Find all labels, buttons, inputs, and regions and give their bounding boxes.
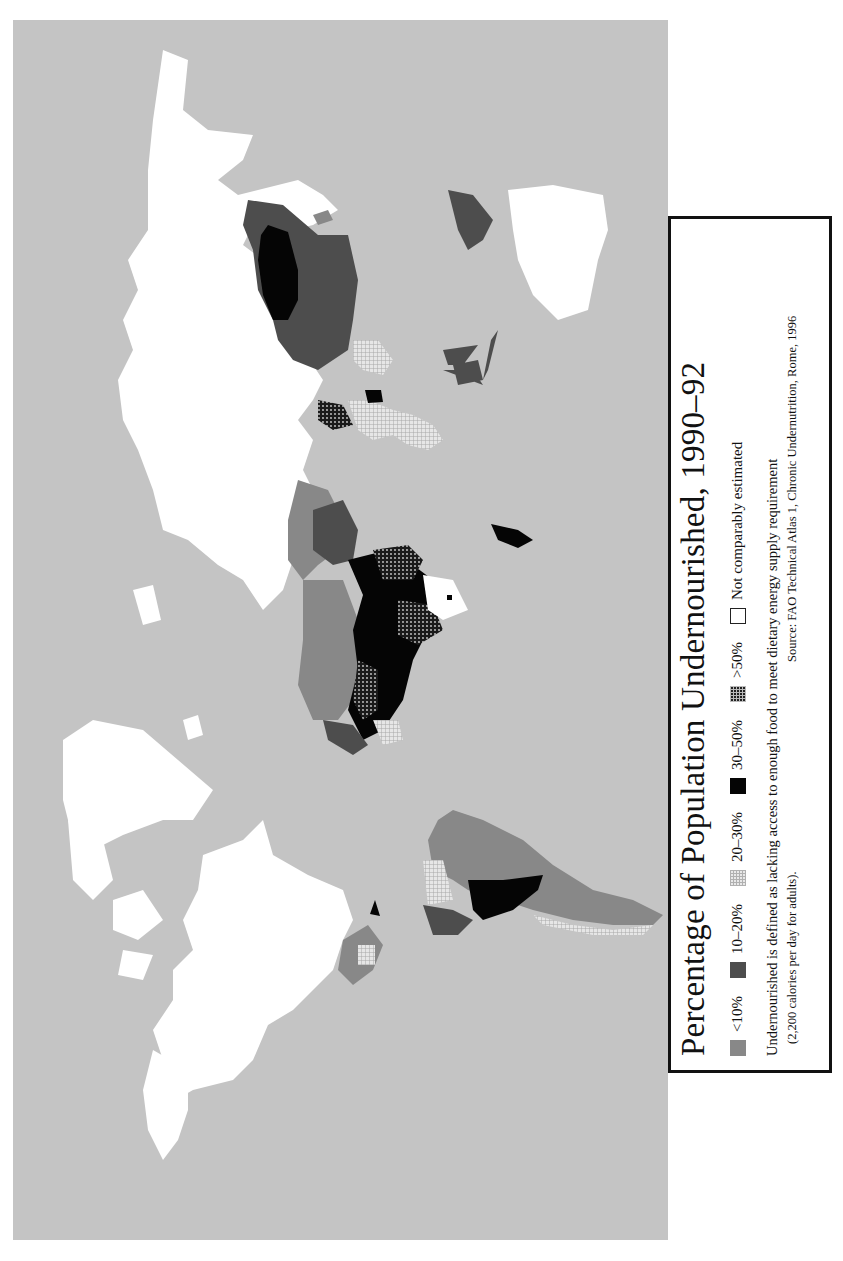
region-north-america	[153, 820, 353, 1110]
definition-subnote: (2,200 calories per day for adults).	[785, 871, 800, 1044]
region-afghanistan	[318, 400, 353, 430]
swatch-light-hatch-icon	[730, 870, 746, 886]
legend-item-20-30: 20–30%	[729, 812, 746, 886]
world-map	[13, 20, 668, 1240]
legend-item-gt50: >50%	[729, 642, 746, 702]
legend-box: Percentage of Population Undernourished,…	[668, 216, 832, 1073]
swatch-medium-gray-icon	[730, 1040, 746, 1056]
legend-label: >50%	[729, 642, 746, 678]
region-cuba	[370, 900, 380, 916]
region-iceland	[183, 715, 203, 740]
legend-item-30-50: 30–50%	[729, 720, 746, 794]
region-madagascar	[491, 524, 533, 548]
region-guatemala	[358, 945, 375, 965]
swatch-white-box-icon	[730, 608, 746, 624]
map-title: Percentage of Population Undernourished,…	[675, 362, 712, 1056]
legend-label: 10–20%	[729, 904, 746, 954]
region-indonesia	[443, 190, 498, 385]
map-svg	[13, 20, 668, 1240]
region-greenland	[63, 720, 213, 850]
legend-item-lt10: <10%	[729, 996, 746, 1056]
region-bangladesh	[365, 390, 383, 403]
legend-categories: <10% 10–20% 20–30% 30–50% >50% Not compa…	[729, 424, 746, 1056]
swatch-dark-hatch-icon	[730, 686, 746, 702]
legend-label: 30–50%	[729, 720, 746, 770]
definition-note: Undernourished is defined as lacking acc…	[764, 459, 781, 1056]
region-south-america	[428, 810, 663, 925]
region-uk	[133, 585, 161, 625]
source-citation: Source: FAO Technical Atlas 1, Chronic U…	[785, 316, 800, 662]
swatch-dark-gray-icon	[730, 962, 746, 978]
legend-label: Not comparably estimated	[729, 442, 746, 600]
region-lesotho	[447, 595, 452, 600]
legend-label: 20–30%	[729, 812, 746, 862]
region-alaska	[143, 1050, 188, 1160]
region-colombia-venezuela	[423, 905, 473, 935]
legend-content: Percentage of Population Undernourished,…	[671, 213, 835, 1070]
legend-item-not-estimated: Not comparably estimated	[729, 442, 746, 624]
legend-item-10-20: 10–20%	[729, 904, 746, 978]
region-india	[348, 400, 443, 450]
legend-label: <10%	[729, 996, 746, 1032]
swatch-black-icon	[730, 778, 746, 794]
region-australia	[508, 185, 608, 320]
region-indochina	[353, 340, 393, 375]
